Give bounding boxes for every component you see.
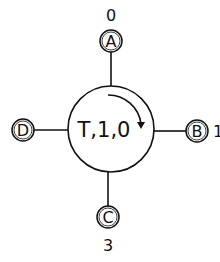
node-a: A	[100, 30, 122, 52]
node-b-label: B	[192, 122, 203, 141]
node-c-index: 3	[103, 236, 113, 255]
node-b-index: 1	[213, 122, 220, 141]
node-d: D	[12, 119, 34, 141]
node-a-label: A	[106, 32, 117, 51]
hub-label: T,1,0	[77, 118, 131, 142]
node-b: B	[186, 120, 208, 142]
node-c-label: C	[102, 208, 113, 227]
junction-diagram: T,1,0 A 0 B 1 C 3 D	[0, 0, 220, 262]
node-c: C	[97, 206, 119, 228]
node-a-index: 0	[106, 6, 116, 25]
hub-node: T,1,0	[68, 86, 154, 172]
node-d-label: D	[17, 121, 29, 140]
